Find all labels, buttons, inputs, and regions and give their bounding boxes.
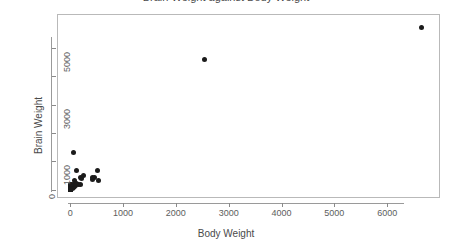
- x-tick-label: 2000: [166, 208, 186, 218]
- chart-title-clipped: Brain Weight against Body Weight: [0, 0, 452, 7]
- x-tick-label: 5000: [324, 208, 344, 218]
- x-tick-label: 0: [68, 208, 73, 218]
- plot-frame: [57, 14, 440, 198]
- y-axis-label: Brain Weight: [10, 0, 67, 250]
- x-tick: [387, 203, 388, 207]
- x-axis-line: [68, 203, 404, 204]
- x-tick-label: 4000: [272, 208, 292, 218]
- x-tick-label: 6000: [377, 208, 397, 218]
- x-tick: [282, 203, 283, 207]
- x-tick: [334, 203, 335, 207]
- x-tick: [123, 203, 124, 207]
- y-axis-label-text: Brain Weight: [33, 96, 44, 153]
- x-tick: [70, 203, 71, 207]
- x-tick: [229, 203, 230, 207]
- x-axis-label: Body Weight: [0, 228, 452, 239]
- x-tick-label: 3000: [219, 208, 239, 218]
- x-tick: [176, 203, 177, 207]
- chart-title: Brain Weight against Body Weight: [0, 0, 452, 3]
- scatter-plot-figure: Brain Weight against Body Weight 0100020…: [0, 0, 452, 250]
- x-tick-label: 1000: [113, 208, 133, 218]
